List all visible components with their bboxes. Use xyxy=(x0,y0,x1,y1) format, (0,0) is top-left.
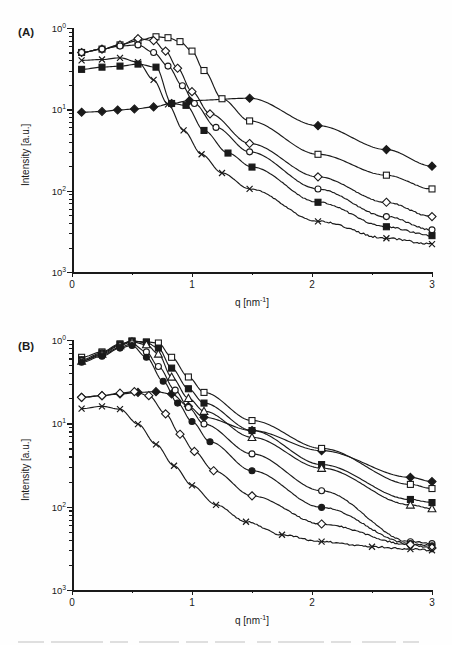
y-axis-tick-label: 103 xyxy=(32,584,66,596)
data-point-marker xyxy=(319,445,325,451)
x-axis-title: q [nm-1] xyxy=(235,614,269,626)
x-axis-tick xyxy=(312,590,313,595)
data-point-marker xyxy=(201,127,207,133)
data-point-marker xyxy=(382,146,390,154)
y-axis-tick-label: 100 xyxy=(32,334,66,346)
data-point-marker xyxy=(169,365,175,371)
data-point-marker xyxy=(98,107,106,115)
data-point-marker xyxy=(99,353,105,359)
data-point-marker xyxy=(150,103,158,111)
data-point-marker xyxy=(201,389,207,395)
data-curve xyxy=(82,406,432,551)
data-point-marker xyxy=(189,419,195,425)
data-point-marker xyxy=(428,478,436,486)
x-axis-minor-tick xyxy=(372,590,373,593)
data-point-marker xyxy=(175,400,181,406)
data-point-marker xyxy=(383,214,389,220)
data-point-marker xyxy=(429,186,435,192)
x-axis-tick xyxy=(432,272,433,277)
data-point-marker xyxy=(99,64,105,70)
curve-layer xyxy=(72,28,432,272)
data-point-marker xyxy=(247,118,253,124)
data-point-marker xyxy=(183,102,189,108)
data-point-marker xyxy=(315,199,321,205)
data-curve xyxy=(82,45,432,230)
data-point-marker xyxy=(314,122,322,130)
data-point-marker xyxy=(185,404,191,410)
data-point-marker xyxy=(319,504,325,510)
panel-a: (A) 1001011021030123q [nm-1]Intensity [a… xyxy=(0,0,452,322)
data-point-marker xyxy=(151,49,157,55)
y-axis-tick-label: 100 xyxy=(32,22,66,34)
plot-area-a: 1001011021030123q [nm-1]Intensity [a.u.] xyxy=(72,28,432,272)
data-point-marker xyxy=(314,173,322,181)
data-point-marker xyxy=(185,394,193,401)
data-point-marker xyxy=(201,68,207,74)
data-curve xyxy=(82,342,432,509)
data-point-marker xyxy=(153,441,159,447)
data-point-marker xyxy=(79,66,85,72)
data-point-marker xyxy=(213,124,219,130)
data-point-marker xyxy=(200,407,208,414)
x-axis-tick xyxy=(432,590,433,595)
data-point-marker xyxy=(319,488,325,494)
data-point-marker xyxy=(160,378,166,384)
x-axis-tick xyxy=(192,272,193,277)
data-point-marker xyxy=(249,451,255,457)
data-curve xyxy=(82,64,432,236)
y-axis-title: Intensity [a.u.] xyxy=(20,124,31,186)
x-axis-tick-label: 1 xyxy=(189,279,195,290)
data-point-marker xyxy=(79,49,85,55)
x-axis-minor-tick xyxy=(372,272,373,275)
y-axis-tick-label: 102 xyxy=(32,185,66,197)
curve-layer xyxy=(72,340,432,590)
x-axis-tick xyxy=(192,590,193,595)
data-point-marker xyxy=(117,63,123,69)
data-point-marker xyxy=(246,94,254,102)
data-point-marker xyxy=(135,42,141,48)
data-point-marker xyxy=(172,387,178,393)
data-point-marker xyxy=(191,100,197,106)
data-point-marker xyxy=(207,439,213,445)
data-point-marker xyxy=(206,110,214,118)
data-point-marker xyxy=(181,127,187,133)
data-point-marker xyxy=(169,354,175,360)
data-curve xyxy=(82,341,432,488)
data-point-marker xyxy=(249,468,255,474)
data-curve xyxy=(82,345,432,545)
data-point-marker xyxy=(135,421,141,427)
data-point-marker xyxy=(98,392,106,400)
plot-area-b: 1001011021030123q [nm-1]Intensity [a.u.] xyxy=(72,340,432,590)
data-point-marker xyxy=(249,418,255,424)
data-point-marker xyxy=(249,164,255,170)
x-axis-tick-label: 1 xyxy=(189,597,195,608)
x-axis-tick-label: 2 xyxy=(309,279,315,290)
x-axis-title: q [nm-1] xyxy=(235,296,269,308)
x-axis-minor-tick xyxy=(252,272,253,275)
data-point-marker xyxy=(315,151,321,157)
panel-b: (B) 1001011021030123q [nm-1]Intensity [a… xyxy=(0,318,452,630)
x-axis-tick-label: 0 xyxy=(69,597,75,608)
data-point-marker xyxy=(406,473,414,481)
data-point-marker xyxy=(116,389,124,397)
data-point-marker xyxy=(429,227,435,233)
data-point-marker xyxy=(315,186,321,192)
data-point-marker xyxy=(143,354,149,360)
data-curve xyxy=(82,392,432,482)
data-point-marker xyxy=(318,520,326,528)
data-point-marker xyxy=(185,374,191,380)
data-point-marker xyxy=(189,48,195,54)
data-point-marker xyxy=(78,108,86,116)
data-point-marker xyxy=(117,345,123,351)
data-point-marker xyxy=(248,492,256,500)
data-point-marker xyxy=(179,83,185,89)
data-point-marker xyxy=(383,224,389,230)
y-axis-tick-label: 102 xyxy=(32,501,66,513)
x-axis-tick xyxy=(72,272,73,277)
data-point-marker xyxy=(190,447,198,455)
data-point-marker xyxy=(117,43,123,49)
data-point-marker xyxy=(246,139,254,147)
data-point-marker xyxy=(79,359,85,365)
data-point-marker xyxy=(185,386,191,392)
data-point-marker xyxy=(165,35,171,41)
